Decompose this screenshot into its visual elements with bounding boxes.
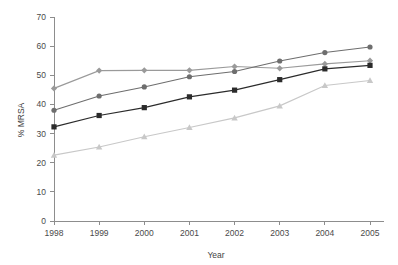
data-point-marker — [277, 58, 282, 63]
y-tick-label: 10 — [37, 187, 47, 197]
data-point-marker — [51, 108, 56, 113]
x-tick-label: 1998 — [45, 228, 64, 238]
plot-series-layer — [51, 44, 373, 157]
y-tick-label: 0 — [41, 216, 46, 226]
chart-container: 010203040506070 199819992000200120022003… — [0, 0, 398, 265]
y-tick-label: 40 — [37, 99, 47, 109]
y-tick-label: 60 — [37, 41, 47, 51]
series-line — [54, 47, 370, 110]
data-point-marker — [51, 85, 57, 91]
data-point-marker — [97, 93, 102, 98]
data-point-marker — [186, 67, 192, 73]
series-circle — [51, 44, 372, 112]
data-point-marker — [277, 77, 282, 82]
data-point-marker — [322, 66, 327, 71]
x-axis-title: Year — [207, 250, 224, 260]
data-point-marker — [96, 68, 102, 74]
data-point-marker — [51, 124, 56, 129]
data-point-marker — [141, 67, 147, 73]
x-axis: 19981999200020012002200320042005 — [45, 221, 384, 238]
x-tick-label: 1999 — [90, 228, 109, 238]
data-point-marker — [231, 63, 237, 69]
x-tick-label: 2005 — [361, 228, 380, 238]
data-point-marker — [322, 50, 327, 55]
data-point-marker — [367, 44, 372, 49]
x-tick-label: 2001 — [180, 228, 199, 238]
data-point-marker — [187, 74, 192, 79]
data-point-marker — [142, 105, 147, 110]
data-point-marker — [277, 103, 283, 109]
x-tick-label: 2003 — [270, 228, 289, 238]
y-axis-title: % MRSA — [16, 102, 26, 137]
data-point-marker — [232, 88, 237, 93]
x-tick-label: 2002 — [225, 228, 244, 238]
data-point-marker — [232, 69, 237, 74]
line-chart: 010203040506070 199819992000200120022003… — [0, 0, 398, 265]
data-point-marker — [142, 84, 147, 89]
data-point-marker — [367, 63, 372, 68]
x-tick-label: 2004 — [315, 228, 334, 238]
x-tick-label: 2000 — [135, 228, 154, 238]
y-axis: 010203040506070 — [37, 12, 54, 226]
data-point-marker — [322, 61, 328, 67]
data-point-marker — [277, 65, 283, 71]
data-point-marker — [97, 113, 102, 118]
y-tick-label: 70 — [37, 12, 47, 22]
y-tick-label: 30 — [37, 129, 47, 139]
y-tick-label: 20 — [37, 158, 47, 168]
y-tick-label: 50 — [37, 70, 47, 80]
data-point-marker — [187, 94, 192, 99]
